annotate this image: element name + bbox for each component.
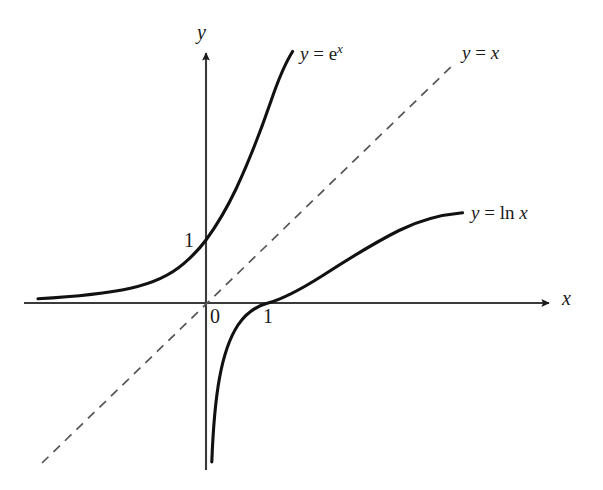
logarithm-curve (212, 213, 463, 462)
origin-tick-label: 0 (210, 306, 220, 326)
exponential-curve (38, 52, 293, 299)
exp-label-base: e (329, 43, 337, 64)
exponential-curve-label: y = ex (300, 44, 343, 63)
identity-label-x: x (491, 42, 499, 63)
x-axis-label: x (562, 288, 571, 308)
logarithm-curve-label: y = ln x (471, 203, 528, 222)
math-graph-figure: y x 0 1 1 y = ex y = x y = ln x (0, 0, 603, 490)
log-label-equals: = (479, 202, 499, 223)
y-axis-label: y (197, 22, 206, 42)
log-label-argument: x (519, 202, 527, 223)
identity-line-y-equals-x (42, 63, 455, 463)
log-label-function: ln (500, 202, 520, 223)
x-tick-label-1: 1 (263, 306, 273, 326)
exp-label-equals: = (308, 43, 328, 64)
identity-line-label: y = x (462, 43, 499, 62)
y-tick-label-1: 1 (184, 230, 194, 250)
graph-canvas (0, 0, 603, 490)
exp-label-exponent: x (337, 41, 343, 56)
identity-label-equals: = (470, 42, 490, 63)
